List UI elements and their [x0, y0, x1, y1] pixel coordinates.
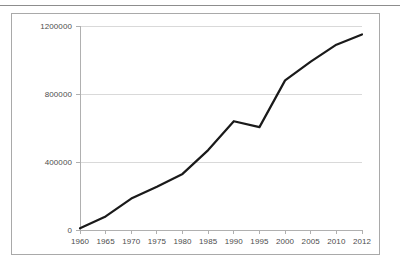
data-series-group	[80, 35, 362, 229]
x-tick-label-1960: 1960	[71, 237, 89, 246]
chart-page: 04000008000001200000 1960196519701975198…	[0, 0, 400, 265]
y-tick-label-1200000: 1200000	[12, 22, 72, 31]
x-tick-label-2000: 2000	[276, 237, 294, 246]
x-tick-label-1980: 1980	[173, 237, 191, 246]
series-line-0	[80, 35, 362, 229]
x-tick-label-2005: 2005	[302, 237, 320, 246]
y-tick-label-800000: 800000	[12, 90, 72, 99]
x-tick-label-1985: 1985	[199, 237, 217, 246]
x-tick-label-2012: 2012	[353, 237, 371, 246]
x-tick-label-1965: 1965	[97, 237, 115, 246]
line-chart-svg	[12, 14, 381, 256]
x-tick-label-1990: 1990	[225, 237, 243, 246]
y-tick-label-0: 0	[12, 226, 72, 235]
chart-frame: 04000008000001200000 1960196519701975198…	[11, 13, 380, 255]
x-tick-label-1975: 1975	[148, 237, 166, 246]
x-tick-label-1995: 1995	[250, 237, 268, 246]
plot-area: 04000008000001200000 1960196519701975198…	[12, 14, 381, 256]
page-top-rule	[0, 5, 400, 6]
x-tick-marks	[80, 230, 362, 234]
x-tick-label-2010: 2010	[327, 237, 345, 246]
y-tick-label-400000: 400000	[12, 158, 72, 167]
x-tick-label-1970: 1970	[122, 237, 140, 246]
y-tick-marks	[76, 26, 80, 230]
